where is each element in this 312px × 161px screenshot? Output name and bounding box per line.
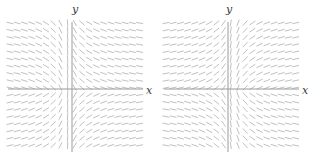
slope-segment-group bbox=[163, 20, 299, 149]
slope-segment bbox=[256, 36, 262, 39]
slope-segment bbox=[129, 22, 136, 23]
slope-segment bbox=[163, 44, 170, 45]
slope-segment bbox=[73, 56, 77, 62]
slope-segment bbox=[86, 122, 92, 126]
slope-segment bbox=[177, 51, 184, 53]
slope-segment bbox=[292, 123, 299, 124]
slope-segment bbox=[170, 44, 177, 46]
slope-segment bbox=[21, 44, 28, 46]
slope-segment bbox=[271, 130, 278, 132]
slope-segment bbox=[86, 36, 92, 40]
slope-segment bbox=[292, 22, 299, 23]
slope-segment bbox=[184, 130, 191, 132]
slope-segment bbox=[271, 44, 278, 46]
slope-segment bbox=[278, 123, 285, 125]
slope-segment bbox=[107, 51, 114, 53]
slope-segment bbox=[184, 94, 191, 96]
slope-segment bbox=[14, 22, 21, 24]
slope-segment bbox=[199, 94, 205, 97]
slope-segment bbox=[170, 94, 177, 96]
slope-segment bbox=[73, 78, 77, 84]
slope-segment bbox=[28, 79, 35, 81]
slope-segment bbox=[163, 87, 170, 88]
slope-segment bbox=[129, 58, 136, 59]
slope-segment bbox=[115, 137, 122, 139]
slope-segment bbox=[79, 136, 84, 141]
slope-segment bbox=[285, 80, 292, 82]
slope-segment bbox=[250, 35, 256, 39]
slope-segment bbox=[43, 57, 49, 61]
slope-segment bbox=[237, 70, 240, 77]
slope-segment bbox=[256, 144, 262, 147]
slope-segment bbox=[285, 116, 292, 118]
slope-segment bbox=[199, 130, 205, 133]
slope-segment bbox=[100, 108, 107, 110]
slope-segment bbox=[43, 115, 49, 119]
slope-segment bbox=[73, 70, 77, 76]
left-slope-field-panel: y x bbox=[0, 0, 156, 161]
slope-segment bbox=[100, 144, 107, 146]
slope-segment bbox=[100, 137, 107, 139]
slope-segment bbox=[177, 29, 184, 31]
slope-segment bbox=[28, 72, 35, 74]
slope-segment bbox=[191, 58, 198, 60]
slope-segment bbox=[43, 64, 49, 68]
slope-segment bbox=[271, 144, 278, 146]
slope-segment bbox=[136, 44, 143, 45]
slope-segment bbox=[285, 73, 292, 75]
slope-segment bbox=[93, 137, 99, 140]
slope-segment bbox=[129, 73, 136, 74]
slope-segment bbox=[59, 128, 62, 134]
slope-segment bbox=[7, 94, 14, 96]
slope-segment bbox=[136, 66, 143, 67]
slope-segment bbox=[250, 21, 256, 25]
slope-segment bbox=[214, 129, 220, 133]
slope-segment bbox=[7, 80, 14, 82]
slope-segment bbox=[59, 63, 62, 69]
slope-segment bbox=[36, 115, 42, 118]
slope-segment bbox=[222, 63, 226, 69]
slope-segment bbox=[292, 145, 299, 146]
slope-segment bbox=[191, 22, 198, 24]
slope-segment bbox=[73, 63, 77, 69]
slope-segment bbox=[100, 65, 107, 67]
slope-segment bbox=[271, 72, 278, 74]
slope-segment bbox=[79, 114, 84, 119]
slope-segment bbox=[292, 87, 299, 88]
slope-segment bbox=[243, 85, 248, 90]
slope-segment bbox=[271, 22, 278, 24]
slope-segment bbox=[136, 102, 143, 103]
slope-segment bbox=[206, 65, 212, 68]
slope-segment bbox=[214, 136, 220, 140]
slope-segment bbox=[43, 108, 49, 112]
slope-segment bbox=[199, 79, 205, 82]
slope-segment bbox=[21, 116, 28, 118]
slope-segment bbox=[59, 49, 62, 55]
slope-segment bbox=[100, 123, 107, 125]
slope-segment bbox=[256, 50, 262, 53]
slope-segment bbox=[177, 109, 184, 111]
slope-segment bbox=[292, 37, 299, 38]
slope-segment bbox=[199, 36, 205, 39]
slope-segment bbox=[107, 123, 114, 125]
slope-segment bbox=[28, 123, 35, 125]
slope-segment bbox=[21, 72, 28, 74]
slope-segment bbox=[115, 22, 122, 24]
slope-segment bbox=[163, 116, 170, 117]
slope-segment bbox=[51, 129, 56, 134]
slope-segment bbox=[256, 29, 262, 32]
slope-segment bbox=[28, 29, 35, 31]
slope-segment bbox=[73, 34, 77, 40]
slope-segment bbox=[43, 79, 49, 83]
slope-segment bbox=[199, 65, 205, 68]
slope-segment bbox=[264, 51, 271, 54]
slope-segment bbox=[115, 145, 122, 147]
slope-segment bbox=[177, 44, 184, 46]
slope-segment bbox=[36, 122, 42, 125]
slope-segment bbox=[21, 36, 28, 38]
slope-segment bbox=[170, 137, 177, 139]
slope-segment bbox=[237, 113, 240, 120]
slope-segment bbox=[292, 65, 299, 66]
slope-segment bbox=[222, 143, 226, 149]
slope-segment bbox=[59, 34, 62, 40]
